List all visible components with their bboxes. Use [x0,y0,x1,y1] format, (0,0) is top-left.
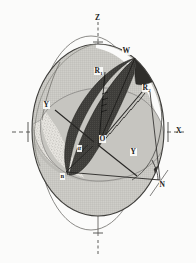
label-point-n-lower: n [60,173,65,180]
label-alpha-angle: α [77,145,82,152]
geometry-figure: Z X W R1 R2 Y Y O α n N [0,0,196,263]
label-r1-sub: 1 [100,71,103,76]
label-z-axis: Z [95,14,100,22]
label-y-prime: Y [43,101,50,109]
label-origin: O [99,135,106,143]
label-y-axis: Y [130,148,137,156]
figure-canvas [0,0,196,263]
label-point-w: W [122,47,131,55]
label-x-axis: X [176,127,182,135]
label-point-N: N [159,181,166,189]
label-point-r1: R1 [94,67,103,75]
label-point-r2: R2 [142,84,151,92]
label-r2-sub: 2 [148,88,151,93]
